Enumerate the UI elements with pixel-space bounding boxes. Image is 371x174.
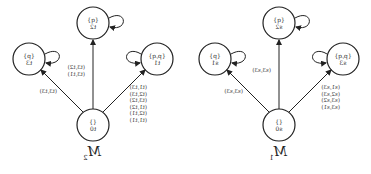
m2-node-top: {q} t2: [78, 16, 108, 30]
m2-node-center: {} t0: [78, 118, 108, 132]
m2-caption: M2: [83, 144, 101, 162]
m2-center-props: {}: [78, 118, 108, 125]
edge-label: (s3,s3): [252, 67, 271, 74]
edge-label: (t1,t3): [130, 84, 147, 91]
m2-center-state: t0: [78, 125, 108, 132]
m1-center-props: {}: [264, 118, 294, 125]
edge-label: (t2,t1): [130, 110, 147, 117]
m1-edge-labels-right: (s3,s3): [224, 88, 243, 95]
m1-right-state: s1: [200, 59, 230, 66]
edge-label: (t3,t2): [130, 97, 147, 104]
m2-left-props: {p,q}: [142, 52, 172, 59]
m1-node-center: {} s0: [264, 118, 294, 132]
m2-edge-labels-right: (t3,t3): [40, 88, 57, 95]
m2-right-props: {p}: [14, 52, 44, 59]
m2-top-state: t2: [78, 23, 108, 30]
m1-right-props: {p}: [200, 52, 230, 59]
m1-center-state: s0: [264, 125, 294, 132]
kripke-structures-figure: {} s0 {p,q} s3 {q} s2 {p} s1 (s1,s3) (s2…: [0, 0, 371, 174]
edge-label: (t3,t1): [68, 71, 85, 78]
m2-node-right: {p} t3: [14, 52, 44, 66]
m1-top-state: s2: [264, 23, 294, 30]
m2-edge-labels-left: (t1,t3) (t2,t3) (t3,t2) (t1,t2) (t2,t1) …: [130, 84, 147, 123]
m2-left-state: t1: [142, 59, 172, 66]
m1-node-right: {p} s1: [200, 52, 230, 66]
edge-label: (t3,t2): [68, 64, 85, 71]
m2-node-left: {p,q} t1: [142, 52, 172, 66]
m1-left-state: s3: [328, 59, 358, 66]
m2-right-state: t3: [14, 59, 44, 66]
m1-node-left: {p,q} s3: [328, 52, 358, 66]
m1-node-top: {q} s2: [264, 16, 294, 30]
m1-top-props: {q}: [264, 16, 294, 23]
m1-edge-labels-left: (s1,s3) (s2,s3) (s3,s2) (s3,s1): [321, 84, 340, 110]
m1-left-props: {p,q}: [328, 52, 358, 59]
edge-label: (s3,s2): [321, 97, 340, 104]
m2-edge-labels-top: (t3,t2) (t3,t1): [68, 64, 85, 77]
edge-label: (s3,s1): [321, 104, 340, 111]
edge-label: (t1,t1): [130, 117, 147, 124]
edge-label: (t3,t3): [40, 88, 57, 95]
edge-label: (s3,s3): [224, 88, 243, 95]
m1-caption: M1: [269, 144, 287, 162]
m2-top-props: {q}: [78, 16, 108, 23]
m1-edge-labels-top: (s3,s3): [252, 67, 271, 74]
edge-label: (s1,s3): [321, 84, 340, 91]
diagram-graphics: [0, 0, 371, 174]
